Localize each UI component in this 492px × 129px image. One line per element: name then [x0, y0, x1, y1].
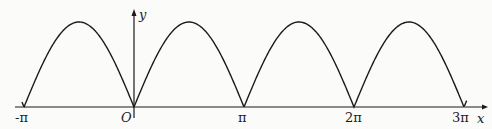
- x-axis-arrow-icon: [482, 105, 488, 110]
- tick-label-3pi: 3π: [452, 111, 469, 124]
- tick-label-pi: π: [238, 111, 247, 124]
- tick-label-2pi: 2π: [345, 111, 362, 124]
- y-axis-label: y: [139, 8, 146, 21]
- origin-label: O: [121, 111, 132, 124]
- x-axis-label: x: [477, 112, 484, 125]
- abs-sine-diagram: -π O π 2π 3π x y: [0, 0, 492, 129]
- abs-sine-curve: [22, 22, 467, 107]
- tick-label-neg-pi: -π: [15, 111, 28, 124]
- y-axis-arrow-icon: [132, 9, 137, 16]
